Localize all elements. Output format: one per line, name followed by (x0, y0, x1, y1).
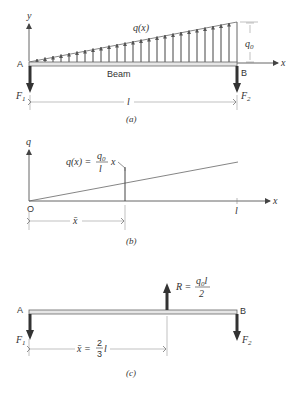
svg-text:l: l (99, 163, 102, 174)
y-axis-label: y (26, 10, 32, 21)
length-label: l (235, 205, 238, 216)
svg-text:q0l: q0l (196, 275, 208, 288)
force-f2-label: F2 (240, 90, 251, 103)
beam (29, 310, 237, 314)
beam-load-diagram: y (0, 0, 298, 395)
panel-a: y (15, 10, 286, 124)
xbar-label: x̄ (72, 215, 78, 226)
svg-text:2: 2 (199, 288, 204, 299)
svg-text:l: l (104, 343, 107, 354)
load-equation: q(x) = q0 l x (66, 150, 116, 174)
x-axis-label: x (280, 57, 286, 68)
support-a-label: A (17, 59, 23, 69)
svg-text:x̄ =: x̄ = (76, 343, 91, 354)
length-label: l (127, 96, 130, 107)
x-axis-label: x (272, 195, 278, 206)
q0-label: q0 (245, 38, 254, 51)
support-a-label: A (17, 305, 23, 315)
load-line (29, 162, 238, 201)
q-axis-label: q (26, 136, 31, 147)
force-f2-label: F2 (241, 334, 252, 347)
panel-c: A B F1 F2 R = q0l 2 x̄ = 2 3 l (c) (15, 275, 252, 378)
caption-b: (b) (126, 236, 137, 246)
leader-line (118, 162, 125, 171)
svg-text:R =: R = (175, 281, 191, 292)
support-b-label: B (241, 68, 247, 78)
caption-c: (c) (126, 368, 136, 378)
svg-text:q(x) =: q(x) = (66, 156, 91, 168)
support-b-label: B (240, 306, 246, 316)
origin-label: O (27, 204, 34, 214)
svg-text:q0: q0 (97, 150, 106, 163)
force-f1-label: F1 (15, 334, 26, 347)
svg-text:x: x (110, 156, 116, 167)
xbar-equation: x̄ = 2 3 l (76, 338, 107, 359)
force-f1-label: F1 (15, 90, 26, 103)
svg-text:2: 2 (97, 338, 102, 348)
panel-b: q x l O q(x) = q0 l x x̄ (b) (26, 136, 278, 246)
load-label: q(x) (133, 22, 150, 34)
beam (29, 62, 237, 66)
resultant-equation: R = q0l 2 (175, 275, 210, 299)
svg-text:3: 3 (97, 349, 102, 359)
caption-a: (a) (126, 114, 137, 124)
beam-label: Beam (107, 69, 131, 79)
